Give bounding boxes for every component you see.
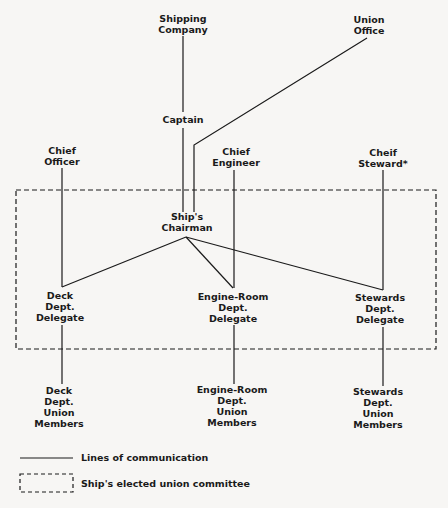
node-label: Shipping [158, 13, 208, 24]
legend-dashed-box [20, 474, 73, 492]
node-label: Dept. [34, 396, 83, 407]
connector-lines [0, 0, 448, 508]
node-label: Chief [44, 145, 79, 156]
node-label: Deck [36, 290, 84, 301]
line-chairman-stewards [186, 237, 383, 290]
node-label: Engine-Room [198, 291, 269, 302]
node-label: Union [197, 406, 268, 417]
node-label: Office [353, 25, 384, 36]
node-label: Members [353, 419, 403, 430]
node-label: Engine-Room [197, 384, 268, 395]
line-union-chairman [194, 38, 367, 212]
node-union-office: Union Office [353, 14, 384, 36]
node-label: Steward* [358, 158, 407, 169]
node-stewards-members: Stewards Dept. Union Members [353, 386, 403, 430]
node-chief-officer: Chief Officer [44, 145, 79, 167]
node-ships-chairman: Ship's Chairman [161, 211, 212, 233]
committee-box [16, 190, 436, 349]
node-label: Union [353, 408, 403, 419]
node-label: Deck [34, 385, 83, 396]
node-engine-delegate: Engine-Room Dept. Delegate [198, 291, 269, 324]
node-label: Delegate [36, 312, 84, 323]
node-label: Delegate [355, 314, 405, 325]
node-label: Captain [162, 114, 203, 125]
node-label: Cheif [358, 147, 407, 158]
node-captain: Captain [162, 114, 203, 125]
node-label: Dept. [197, 395, 268, 406]
node-chief-steward: Cheif Steward* [358, 147, 407, 169]
node-label: Dept. [355, 303, 405, 314]
node-label: Members [34, 418, 83, 429]
node-label: Chairman [161, 222, 212, 233]
node-label: Members [197, 417, 268, 428]
node-label: Ship's [161, 211, 212, 222]
node-label: Officer [44, 156, 79, 167]
node-label: Dept. [198, 302, 269, 313]
node-shipping-company: Shipping Company [158, 13, 208, 35]
node-label: Chief [212, 146, 260, 157]
node-label: Delegate [198, 313, 269, 324]
node-deck-members: Deck Dept. Union Members [34, 385, 83, 429]
node-engine-members: Engine-Room Dept. Union Members [197, 384, 268, 428]
node-label: Union [353, 14, 384, 25]
node-label: Stewards [355, 292, 405, 303]
node-stewards-delegate: Stewards Dept. Delegate [355, 292, 405, 325]
node-label: Union [34, 407, 83, 418]
node-chief-engineer: Chief Engineer [212, 146, 260, 168]
line-chairman-deck [62, 237, 186, 287]
node-label: Stewards [353, 386, 403, 397]
node-deck-delegate: Deck Dept. Delegate [36, 290, 84, 323]
line-chairman-engine [186, 237, 233, 288]
node-label: Engineer [212, 157, 260, 168]
legend-solid-label: Lines of communication [81, 452, 208, 463]
node-label: Dept. [36, 301, 84, 312]
legend-dashed-label: Ship's elected union committee [81, 478, 250, 489]
node-label: Company [158, 24, 208, 35]
node-label: Dept. [353, 397, 403, 408]
